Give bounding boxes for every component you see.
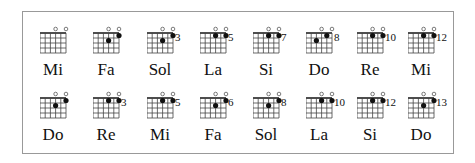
fret-number: 3: [175, 31, 181, 43]
open-string-icon: [64, 92, 68, 96]
open-string-icon: [107, 92, 111, 96]
open-string-icon: [214, 92, 218, 96]
chord-name-label: Fa: [186, 125, 240, 145]
open-string-icon: [161, 27, 165, 31]
open-string-icon: [371, 92, 375, 96]
fretboard-grid-icon: [200, 25, 240, 57]
chord-name-label: Mi: [133, 125, 187, 145]
chord-name-label: Si: [239, 60, 293, 80]
fretboard-grid-icon: [306, 25, 346, 57]
chord-name-label: Do: [292, 60, 346, 80]
open-string-icon: [107, 27, 111, 31]
finger-dot-icon: [319, 98, 324, 103]
open-string-icon: [320, 27, 324, 31]
finger-dot-icon: [106, 98, 111, 103]
finger-dot-icon: [213, 103, 218, 108]
open-string-icon: [422, 92, 426, 96]
finger-dot-icon: [370, 98, 375, 103]
chord-name-label: Mi: [26, 60, 80, 80]
open-string-icon: [371, 27, 375, 31]
chord-name-label: Sol: [239, 125, 293, 145]
open-string-icon: [422, 27, 426, 31]
chord-name-label: Do: [26, 125, 80, 145]
fret-number: 10: [385, 31, 396, 43]
fretboard-grid-icon: [200, 90, 240, 122]
finger-dot-icon: [160, 98, 165, 103]
finger-dot-icon: [314, 38, 319, 43]
fret-number: 13: [436, 96, 447, 108]
fretboard-grid-icon: [93, 90, 133, 122]
fretboard-grid-icon: [40, 90, 80, 122]
chord-name-label: Re: [343, 60, 397, 80]
finger-dot-icon: [421, 33, 426, 38]
open-string-icon: [320, 92, 324, 96]
fret-number: 10: [334, 96, 345, 108]
chord-name-label: La: [186, 60, 240, 80]
finger-dot-icon: [324, 33, 329, 38]
fret-number: 3: [121, 96, 127, 108]
finger-dot-icon: [370, 33, 375, 38]
finger-dot-icon: [266, 33, 271, 38]
open-string-icon: [267, 27, 271, 31]
chord-name-label: La: [292, 125, 346, 145]
chord-name-label: Sol: [133, 60, 187, 80]
finger-dot-icon: [53, 103, 58, 108]
fretboard-grid-icon: [147, 25, 187, 57]
fret-number: 5: [228, 31, 234, 43]
fretboard-grid-icon: [93, 25, 133, 57]
finger-dot-icon: [106, 38, 111, 43]
open-string-icon: [214, 27, 218, 31]
fret-number: 12: [385, 96, 396, 108]
fret-number: 7: [281, 31, 287, 43]
open-string-icon: [54, 92, 58, 96]
finger-dot-icon: [160, 38, 165, 43]
open-string-icon: [117, 27, 121, 31]
chord-name-label: Mi: [394, 60, 448, 80]
fret-number: 5: [175, 96, 181, 108]
open-string-icon: [267, 92, 271, 96]
chord-name-label: Si: [343, 125, 397, 145]
fret-number: 8: [334, 31, 340, 43]
fretboard-grid-icon: [253, 25, 293, 57]
finger-dot-icon: [213, 33, 218, 38]
finger-dot-icon: [116, 33, 121, 38]
open-string-icon: [161, 92, 165, 96]
fret-number: 8: [281, 96, 287, 108]
open-string-icon: [54, 27, 58, 31]
chord-name-label: Re: [79, 125, 133, 145]
finger-dot-icon: [63, 98, 68, 103]
finger-dot-icon: [421, 103, 426, 108]
chord-name-label: Do: [394, 125, 448, 145]
chord-name-label: Fa: [79, 60, 133, 80]
open-string-icon: [64, 27, 68, 31]
chord-diagram: 12Mi: [408, 25, 458, 85]
fret-number: 6: [228, 96, 234, 108]
fret-number: 12: [436, 31, 447, 43]
chord-diagram: 13Do: [408, 90, 458, 150]
fretboard-grid-icon: [40, 25, 80, 57]
fretboard-grid-icon: [253, 90, 293, 122]
finger-dot-icon: [266, 103, 271, 108]
fretboard-grid-icon: [147, 90, 187, 122]
